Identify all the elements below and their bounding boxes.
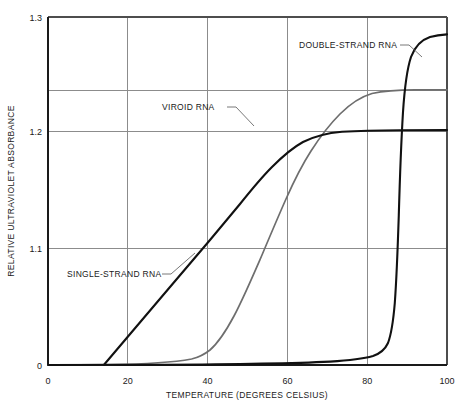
y-tick-1-1: 1.1 — [29, 244, 42, 254]
x-tick-20: 20 — [123, 376, 133, 386]
x-tick-0: 0 — [45, 376, 50, 386]
annotation-single-strand-rna: SINGLE-STRAND RNA — [67, 269, 161, 279]
annotation-double-strand-rna: DOUBLE-STRAND RNA — [299, 40, 397, 50]
chart-figure: DOUBLE-STRAND RNA VIROID RNA SINGLE-STRA… — [0, 0, 462, 410]
y-tick-0: 0 — [37, 361, 42, 371]
y-tick-1-2: 1.2 — [29, 127, 42, 137]
annotation-viroid-rna: VIROID RNA — [162, 102, 215, 112]
x-tick-60: 60 — [282, 376, 292, 386]
y-tick-1-3: 1.3 — [29, 13, 42, 23]
x-axis-title: TEMPERATURE (DEGREES CELSIUS) — [166, 390, 328, 400]
x-tick-labels: 0 20 40 60 80 100 — [45, 376, 454, 386]
x-tick-40: 40 — [203, 376, 213, 386]
plot-background — [48, 17, 447, 365]
x-tick-100: 100 — [439, 376, 454, 386]
y-tick-labels: 1.3 1.2 1.1 0 — [29, 13, 42, 371]
x-tick-80: 80 — [362, 376, 372, 386]
melting-curve-chart: DOUBLE-STRAND RNA VIROID RNA SINGLE-STRA… — [0, 0, 462, 410]
y-axis-title: RELATIVE ULTRAVIOLET ABSORBANCE — [6, 105, 16, 276]
